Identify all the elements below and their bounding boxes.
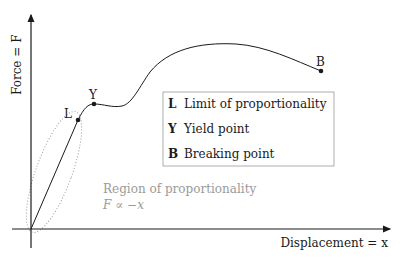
legend-key-b: B	[168, 147, 178, 161]
legend-key-y: Y	[167, 122, 177, 136]
force-displacement-diagram: L Y B Force = F Displacement = x L Limit…	[0, 0, 403, 262]
region-label: Region of proportionality	[103, 182, 256, 196]
x-axis-label: Displacement = x	[280, 236, 388, 250]
proportionality-region-ellipse	[15, 106, 93, 239]
legend-label-b: Breaking point	[184, 147, 275, 161]
legend-label-l: Limit of proportionality	[184, 97, 327, 111]
legend: L Limit of proportionality Y Yield point…	[163, 92, 334, 166]
yield-point-label: Y	[88, 88, 98, 102]
region-formula: F ∝ −x	[102, 198, 144, 212]
breaking-point-marker	[319, 69, 324, 74]
legend-label-y: Yield point	[183, 122, 249, 136]
limit-point-label: L	[64, 107, 72, 121]
legend-key-l: L	[168, 97, 177, 111]
yield-point-marker	[92, 102, 97, 107]
breaking-point-label: B	[316, 55, 325, 69]
y-axis-label: Force = F	[10, 35, 24, 95]
limit-point-marker	[76, 118, 81, 123]
diagram-canvas: L Y B Force = F Displacement = x L Limit…	[0, 0, 403, 262]
